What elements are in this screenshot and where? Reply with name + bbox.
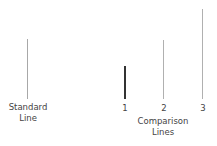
comparison-number-1: 1	[119, 103, 131, 114]
standard-label: Standard Line	[2, 102, 54, 124]
comparison-number-3: 3	[197, 103, 209, 114]
standard-label-line1: Standard	[2, 102, 54, 113]
standard-label-line2: Line	[2, 113, 54, 124]
comparison-caption-line2: Lines	[133, 127, 193, 138]
comparison-line-3	[202, 9, 203, 99]
comparison-line-2	[163, 40, 164, 99]
comparison-line-1	[124, 66, 126, 99]
comparison-caption-line1: Comparison	[133, 116, 193, 127]
comparison-number-2: 2	[158, 103, 170, 114]
standard-line	[27, 39, 28, 99]
comparison-caption: Comparison Lines	[133, 116, 193, 138]
